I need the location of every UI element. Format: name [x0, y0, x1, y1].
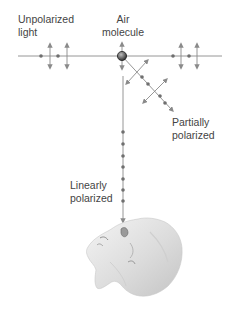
label-line: light	[18, 26, 74, 39]
label-line: Linearly	[70, 179, 113, 192]
linearly-polarized-beam	[121, 76, 125, 221]
label-line: polarized	[172, 129, 215, 142]
partially-polarized-beam	[122, 56, 172, 110]
polarization-diagram: Unpolarized light Air molecule Partially…	[0, 0, 228, 313]
air-molecule-label: Air molecule	[99, 13, 147, 39]
diagram-graphics	[0, 0, 228, 313]
linearly-polarized-label: Linearly polarized	[70, 179, 113, 205]
observer-head-icon	[87, 218, 183, 296]
air-molecule-icon	[117, 51, 126, 60]
unpolarized-light-label: Unpolarized light	[18, 13, 74, 39]
label-line: molecule	[99, 26, 147, 39]
label-line: Air	[99, 13, 147, 26]
label-line: polarized	[70, 192, 113, 205]
label-line: Partially	[172, 116, 215, 129]
label-line: Unpolarized	[18, 13, 74, 26]
partially-polarized-label: Partially polarized	[172, 116, 215, 142]
